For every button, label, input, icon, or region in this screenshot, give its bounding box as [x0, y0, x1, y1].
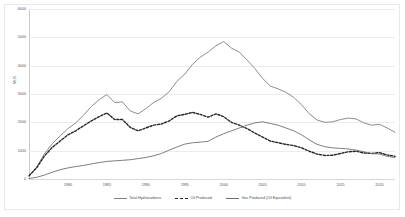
- legend-item[interactable]: Total Hydrocarbons: [114, 196, 161, 200]
- legend-swatch-icon: [226, 198, 239, 199]
- plot-area: [29, 9, 395, 179]
- x-axis-tick-label: 2015: [327, 183, 353, 187]
- x-axis-tick-label: 2000: [211, 183, 237, 187]
- legend-item[interactable]: Gas Produced (Oil Equivalent): [226, 196, 291, 200]
- legend-label: Oil Produced: [191, 196, 212, 200]
- series-line: [29, 112, 395, 175]
- x-axis-tick-label: 1995: [172, 183, 198, 187]
- y-axis-tick-label: 2000: [4, 120, 26, 124]
- series-container: [29, 9, 395, 179]
- series-line: [29, 122, 395, 179]
- y-axis-tick-label: 6000: [4, 7, 26, 11]
- y-axis-tick-label: 0: [4, 177, 26, 181]
- legend-item[interactable]: Oil Produced: [175, 196, 212, 200]
- chart-legend: Total HydrocarbonsOil ProducedGas Produc…: [0, 196, 405, 200]
- legend-label: Total Hydrocarbons: [129, 196, 161, 200]
- y-axis-tick-label: 4000: [4, 64, 26, 68]
- x-axis-tick-label: 1985: [94, 183, 120, 187]
- x-axis-tick-label: 2005: [250, 183, 276, 187]
- x-axis-tick-label: 2010: [289, 183, 315, 187]
- y-axis-tick-label: 1000: [4, 149, 26, 153]
- gridline: [29, 179, 395, 180]
- line-chart: MLN 6000500040003000200010000 1980198519…: [0, 0, 405, 217]
- legend-swatch-icon: [114, 198, 127, 199]
- legend-label: Gas Produced (Oil Equivalent): [241, 196, 291, 200]
- series-line: [29, 42, 395, 176]
- x-axis-tick-label: 2020: [366, 183, 392, 187]
- x-axis-tick-label: 1990: [133, 183, 159, 187]
- x-axis-tick-label: 1980: [55, 183, 81, 187]
- y-axis-tick-label: 5000: [4, 35, 26, 39]
- legend-swatch-icon: [175, 198, 188, 199]
- y-axis-tick-label: 3000: [4, 92, 26, 96]
